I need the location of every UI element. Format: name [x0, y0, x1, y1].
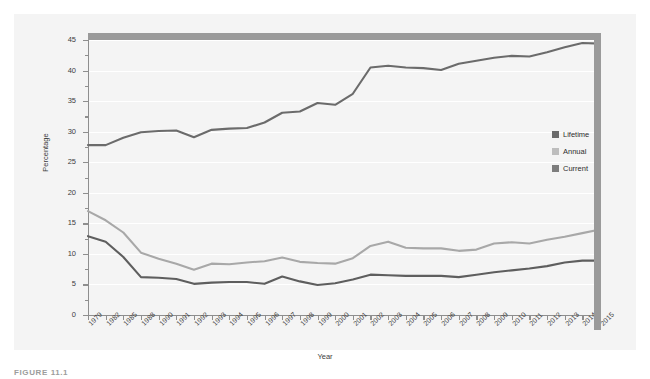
decorative-top-bar: [88, 33, 601, 40]
series-line-annual: [88, 211, 600, 270]
legend-label: Annual: [563, 147, 586, 156]
chart-legend: LifetimeAnnualCurrent: [552, 130, 589, 173]
figure-caption: FIGURE 11.1: [14, 368, 68, 377]
series-line-lifetime: [88, 43, 600, 145]
legend-item-current[interactable]: Current: [552, 164, 589, 173]
legend-item-lifetime[interactable]: Lifetime: [552, 130, 589, 139]
legend-item-annual[interactable]: Annual: [552, 147, 589, 156]
legend-swatch-icon: [552, 131, 559, 138]
legend-swatch-icon: [552, 148, 559, 155]
series-lines: [0, 0, 650, 379]
decorative-right-bar: [594, 33, 601, 330]
figure-container: 051015202530354045 197919821985198819901…: [0, 0, 650, 379]
y-axis-title: Percentage: [41, 133, 50, 171]
legend-swatch-icon: [552, 165, 559, 172]
legend-label: Lifetime: [563, 130, 589, 139]
x-axis-title: Year: [0, 352, 650, 361]
legend-label: Current: [563, 164, 588, 173]
